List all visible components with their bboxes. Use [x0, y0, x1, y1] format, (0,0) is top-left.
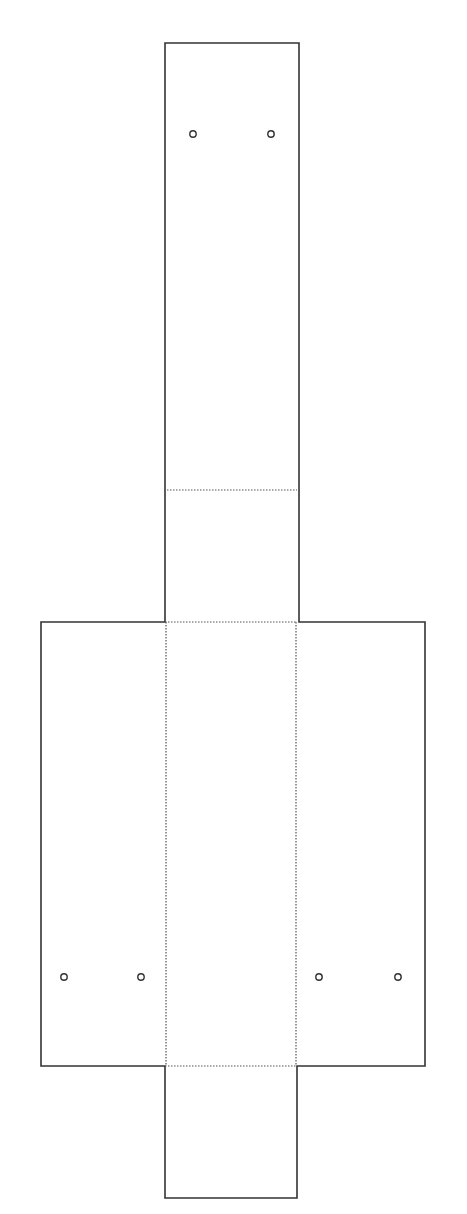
- hole-circle-icon: [395, 974, 401, 980]
- hole-circle-icon: [61, 974, 67, 980]
- outline-path: [41, 43, 425, 1198]
- box-template-diagram: [0, 0, 467, 1214]
- fold-lines: [165, 490, 297, 1066]
- hole-circle-icon: [316, 974, 322, 980]
- punch-holes: [61, 131, 401, 980]
- hole-circle-icon: [138, 974, 144, 980]
- hole-circle-icon: [268, 131, 274, 137]
- hole-circle-icon: [190, 131, 196, 137]
- cut-outline: [41, 43, 425, 1198]
